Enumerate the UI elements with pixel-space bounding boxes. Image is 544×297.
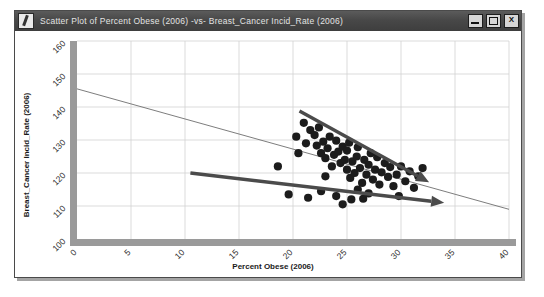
y-tick-label: 140 bbox=[50, 104, 67, 121]
x-tick-label: 15 bbox=[227, 247, 241, 261]
minimize-button[interactable] bbox=[468, 14, 483, 28]
y-tick-label: 110 bbox=[51, 203, 68, 220]
x-axis-tick-labels: 0510152025303540 bbox=[68, 247, 511, 261]
x-tick-label: 10 bbox=[173, 247, 187, 261]
chart-canvas: 0510152025303540 100110120130140150160 P… bbox=[15, 31, 521, 277]
chart-window: Scatter Plot of Percent Obese (2006) -vs… bbox=[14, 10, 522, 278]
y-axis-tick-labels: 100110120130140150160 bbox=[50, 38, 67, 253]
x-tick-label: 30 bbox=[389, 247, 403, 261]
y-tick-label: 150 bbox=[50, 71, 67, 88]
close-button[interactable]: X bbox=[504, 14, 519, 28]
x-tick-label: 40 bbox=[497, 247, 511, 261]
x-tick-label: 35 bbox=[443, 247, 457, 261]
y-tick-label: 120 bbox=[50, 170, 67, 187]
x-tick-label: 0 bbox=[68, 247, 79, 258]
x-tick-label: 5 bbox=[122, 247, 133, 258]
y-tick-label: 130 bbox=[50, 137, 67, 154]
pencil-icon bbox=[18, 13, 34, 29]
maximize-button[interactable] bbox=[486, 14, 501, 28]
window-titlebar[interactable]: Scatter Plot of Percent Obese (2006) -vs… bbox=[15, 11, 521, 31]
x-axis-title: Percent Obese (2006) bbox=[232, 262, 314, 271]
y-tick-label: 160 bbox=[50, 38, 67, 55]
page-background: Scatter Plot of Percent Obese (2006) -vs… bbox=[0, 0, 544, 297]
y-tick-label: 100 bbox=[50, 236, 67, 253]
y-axis-title: Breast_Cancer Incid_Rate (2006) bbox=[22, 92, 31, 217]
x-tick-label: 20 bbox=[281, 247, 295, 261]
scatter-plot: 0510152025303540 100110120130140150160 P… bbox=[15, 31, 521, 277]
data-points bbox=[274, 119, 427, 209]
x-tick-label: 25 bbox=[335, 247, 349, 261]
gridlines bbox=[77, 41, 509, 239]
window-title: Scatter Plot of Percent Obese (2006) -vs… bbox=[40, 16, 465, 26]
